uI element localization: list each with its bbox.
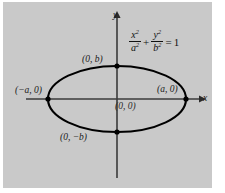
equation-a-den-exponent: 2 (136, 41, 139, 48)
equation-term-x-denominator: a2 (129, 42, 141, 53)
label-left-vertex: (−a, 0) (15, 86, 42, 96)
equation-equals-sign: = (165, 36, 171, 48)
vertex-dot-left (45, 96, 50, 101)
vertex-dot-bottom (114, 129, 119, 134)
equation-y-num-exponent: 2 (158, 28, 161, 35)
vertex-dot-right (183, 96, 188, 101)
equation-b-den-exponent: 2 (158, 41, 161, 48)
equation-right-side: 1 (174, 36, 180, 48)
x-axis-label: x (203, 94, 207, 104)
equation-term-y: y2 b2 (151, 30, 163, 53)
label-origin: (0, 0) (115, 102, 136, 112)
ellipse-equation: x2 a2 + y2 b2 = 1 (129, 30, 179, 53)
equation-term-y-numerator: y2 (152, 30, 164, 41)
vertex-dot-top (114, 63, 119, 68)
y-axis-label: y (113, 11, 117, 21)
label-bottom-vertex: (0, −b) (60, 133, 87, 143)
equation-term-y-denominator: b2 (151, 42, 163, 53)
ellipse-figure: (−a, 0) (a, 0) (0, b) (0, −b) (0, 0) x y… (0, 0, 225, 193)
label-right-vertex: (a, 0) (157, 85, 178, 95)
equation-term-x-numerator: x2 (129, 30, 141, 41)
label-top-vertex: (0, b) (82, 55, 103, 65)
figure-panel: (−a, 0) (a, 0) (0, b) (0, −b) (0, 0) x y… (3, 2, 212, 188)
equation-term-x: x2 a2 (129, 30, 141, 53)
equation-x-num-exponent: 2 (136, 28, 139, 35)
equation-plus-sign: + (143, 36, 149, 48)
